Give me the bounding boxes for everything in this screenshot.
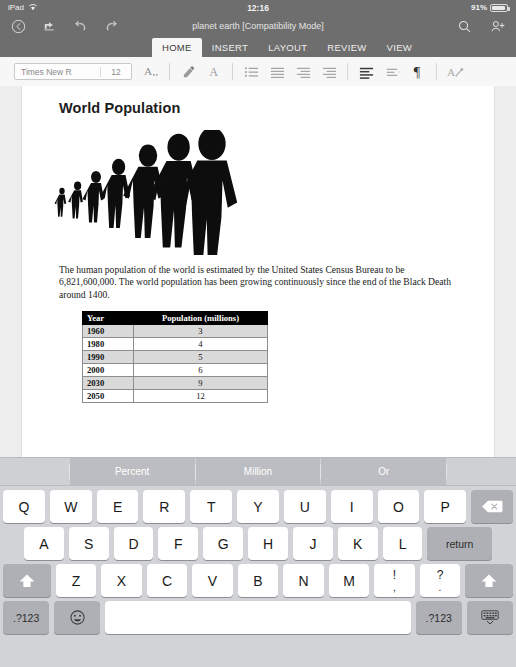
clear-formatting-icon[interactable]: A	[442, 61, 468, 83]
key-q[interactable]: Q	[3, 490, 45, 523]
table-row[interactable]: 2030 9	[83, 377, 268, 390]
key-r[interactable]: R	[143, 490, 185, 523]
document-canvas[interactable]: World Population	[0, 86, 516, 457]
shift-left-icon[interactable]	[3, 564, 51, 597]
bullet-list-icon[interactable]	[238, 61, 264, 83]
table-row[interactable]: 1990 5	[83, 351, 268, 364]
key-v[interactable]: V	[192, 564, 233, 597]
shift-right-icon[interactable]	[465, 564, 513, 597]
key-l[interactable]: L	[383, 527, 423, 560]
key-f[interactable]: F	[158, 527, 198, 560]
font-size-field[interactable]: 12	[100, 67, 131, 77]
table-header-row: Year Population (millions)	[83, 312, 268, 325]
show-marks-icon[interactable]: ¶	[405, 61, 431, 83]
status-right-group: 91%	[471, 3, 508, 12]
tab-home[interactable]: HOME	[152, 38, 202, 57]
key-j[interactable]: J	[293, 527, 333, 560]
key-z[interactable]: Z	[56, 564, 97, 597]
toolbar-separator	[232, 63, 233, 80]
key-y[interactable]: Y	[237, 490, 279, 523]
table-row[interactable]: 2050 12	[83, 390, 268, 403]
key-s[interactable]: S	[69, 527, 109, 560]
key-period-label: .	[439, 583, 442, 593]
table-row[interactable]: 1980 4	[83, 338, 268, 351]
backspace-icon[interactable]	[471, 490, 513, 523]
numeric-left-key[interactable]: .?123	[3, 601, 49, 634]
decrease-indent-icon[interactable]	[290, 61, 316, 83]
tab-view[interactable]: VIEW	[377, 38, 422, 57]
increase-indent-icon[interactable]	[316, 61, 342, 83]
keyboard-row-2: A S D F G H J K L return	[0, 527, 516, 560]
key-p[interactable]: P	[424, 490, 466, 523]
key-u[interactable]: U	[284, 490, 326, 523]
onscreen-keyboard: . Percent Million Or . Q W E R T Y U I O…	[0, 457, 516, 667]
cell-year: 2000	[83, 364, 134, 377]
key-comma-label: ,	[393, 583, 396, 593]
tab-layout[interactable]: LAYOUT	[258, 38, 317, 57]
key-question-period[interactable]: ? .	[420, 564, 461, 597]
key-a[interactable]: A	[24, 527, 64, 560]
cell-population: 5	[134, 351, 268, 364]
key-exclaim-comma[interactable]: ! ,	[374, 564, 415, 597]
key-w[interactable]: W	[50, 490, 92, 523]
space-key[interactable]	[105, 601, 410, 634]
search-icon[interactable]	[456, 18, 473, 35]
population-silhouettes-image[interactable]	[50, 130, 240, 255]
prediction-2[interactable]: Million	[196, 458, 321, 485]
numeric-right-key[interactable]: .?123	[416, 601, 462, 634]
font-name-field[interactable]: Times New R	[15, 67, 100, 77]
keyboard-row-3: Z X C V B N M ! , ? .	[0, 564, 516, 597]
font-format-icon[interactable]: A	[138, 61, 164, 83]
add-person-icon[interactable]	[489, 18, 506, 35]
cell-population: 3	[134, 325, 268, 338]
ios-status-bar: iPad 12:16 91%	[0, 0, 516, 15]
numbered-list-icon[interactable]	[264, 61, 290, 83]
table-row[interactable]: 1960 3	[83, 325, 268, 338]
key-i[interactable]: I	[331, 490, 373, 523]
highlight-icon[interactable]	[175, 61, 201, 83]
key-b[interactable]: B	[238, 564, 279, 597]
document-title: planet earth [Compatibility Mode]	[0, 15, 516, 38]
key-o[interactable]: O	[378, 490, 420, 523]
key-question-label: ?	[437, 569, 444, 581]
key-g[interactable]: G	[203, 527, 243, 560]
svg-text:A: A	[143, 65, 152, 77]
key-e[interactable]: E	[97, 490, 139, 523]
document-paragraph: The human population of the world is est…	[59, 264, 455, 301]
document-page[interactable]: World Population	[22, 86, 494, 457]
prediction-spacer: .	[0, 458, 69, 485]
prediction-3[interactable]: Or	[321, 458, 446, 485]
table-header-population: Population (millions)	[134, 312, 268, 325]
tab-insert[interactable]: INSERT	[202, 38, 258, 57]
table-row[interactable]: 2000 6	[83, 364, 268, 377]
cell-year: 2050	[83, 390, 134, 403]
toolbar-separator	[347, 63, 348, 80]
keyboard-row-4: .?123 .?123	[0, 601, 516, 634]
battery-icon	[490, 4, 508, 12]
command-bar-right-icons	[456, 15, 506, 38]
cell-population: 6	[134, 364, 268, 377]
prediction-1[interactable]: Percent	[70, 458, 195, 485]
hide-keyboard-icon[interactable]	[467, 601, 513, 634]
emoji-icon[interactable]	[54, 601, 100, 634]
line-spacing-icon[interactable]	[379, 61, 405, 83]
font-color-icon[interactable]: A	[201, 61, 227, 83]
font-selector[interactable]: Times New R 12	[14, 63, 132, 80]
cell-year: 1980	[83, 338, 134, 351]
battery-percent: 91%	[471, 3, 487, 12]
key-k[interactable]: K	[338, 527, 378, 560]
key-n[interactable]: N	[283, 564, 324, 597]
cell-year: 1990	[83, 351, 134, 364]
key-x[interactable]: X	[101, 564, 142, 597]
tab-review[interactable]: REVIEW	[317, 38, 376, 57]
keyboard-row-1: Q W E R T Y U I O P	[0, 490, 516, 523]
population-table[interactable]: Year Population (millions) 1960 3 1980 4…	[82, 311, 268, 403]
key-m[interactable]: M	[329, 564, 370, 597]
align-left-icon[interactable]	[353, 61, 379, 83]
cell-population: 4	[134, 338, 268, 351]
key-h[interactable]: H	[248, 527, 288, 560]
return-key[interactable]: return	[427, 527, 492, 560]
key-c[interactable]: C	[147, 564, 188, 597]
key-t[interactable]: T	[190, 490, 232, 523]
key-d[interactable]: D	[114, 527, 154, 560]
